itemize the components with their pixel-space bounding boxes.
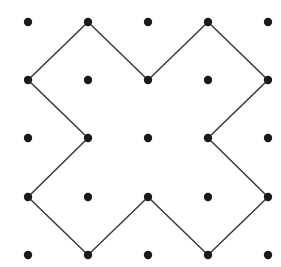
lattice-dot [84, 76, 92, 84]
figure-container [0, 0, 281, 267]
lattice-dot [204, 134, 212, 142]
lattice-dot [24, 193, 32, 201]
lattice-dot [144, 134, 152, 142]
lattice-dot [144, 193, 152, 201]
lattice-dot [84, 134, 92, 142]
lattice-dot [24, 134, 32, 142]
lattice-dot [204, 18, 212, 26]
lattice-dot [264, 134, 272, 142]
lattice-dot [84, 193, 92, 201]
lattice-dot [264, 76, 272, 84]
lattice-dot [264, 18, 272, 26]
lattice-dot [204, 76, 212, 84]
figure-background [0, 0, 281, 267]
lattice-dot [24, 18, 32, 26]
lattice-dot [264, 193, 272, 201]
lattice-dot [24, 251, 32, 259]
lattice-dot [204, 251, 212, 259]
lattice-dot [24, 76, 32, 84]
lattice-dot [144, 18, 152, 26]
lattice-dot [84, 251, 92, 259]
lattice-dot [204, 193, 212, 201]
lattice-dot [144, 251, 152, 259]
lattice-dot [264, 251, 272, 259]
dot-grid-cross-figure [0, 0, 281, 267]
lattice-dot [144, 76, 152, 84]
lattice-dot [84, 18, 92, 26]
